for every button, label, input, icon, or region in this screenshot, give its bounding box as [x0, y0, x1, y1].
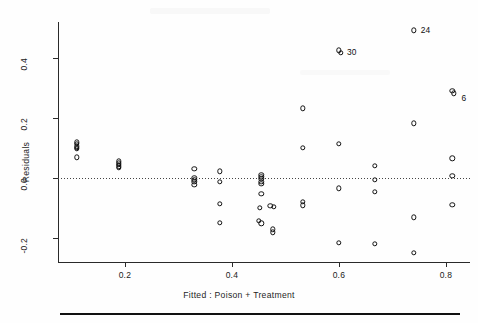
data-point	[192, 166, 197, 171]
scan-artifact	[150, 8, 270, 14]
x-tick-mark	[339, 262, 340, 267]
data-point	[217, 169, 222, 174]
data-point	[411, 214, 416, 219]
data-point	[451, 91, 456, 96]
y-axis-title: Residuals	[21, 141, 31, 181]
residuals-vs-fitted-plot: 0.20.40.60.8-0.20.00.20.4 24306 Residual…	[0, 0, 478, 323]
data-point	[372, 177, 377, 182]
point-label: 24	[421, 25, 430, 35]
x-tick-label: 0.4	[226, 270, 238, 280]
data-point	[411, 120, 416, 125]
y-axis-line	[58, 22, 59, 262]
data-point	[74, 155, 79, 160]
data-point	[217, 220, 222, 225]
data-point	[259, 191, 264, 196]
x-tick-mark	[446, 262, 447, 267]
scan-artifact	[300, 70, 390, 75]
data-point	[116, 165, 121, 170]
data-point	[336, 141, 341, 146]
data-point	[411, 28, 416, 33]
data-point	[271, 204, 276, 209]
data-point	[217, 201, 222, 206]
data-point	[411, 250, 416, 255]
data-point	[336, 240, 341, 245]
y-tick-mark	[53, 118, 58, 119]
data-point	[257, 205, 262, 210]
x-tick-label: 0.8	[440, 270, 452, 280]
page-footer-rule	[60, 313, 460, 315]
x-axis-title: Fitted : Poison + Treatment	[0, 290, 478, 300]
point-label: 30	[347, 47, 356, 57]
y-tick-mark	[53, 178, 58, 179]
data-point	[372, 189, 377, 194]
x-tick-label: 0.6	[333, 270, 345, 280]
data-point	[300, 145, 305, 150]
y-tick-label: -0.2	[19, 238, 29, 253]
data-point	[336, 185, 341, 190]
data-point	[192, 182, 197, 187]
y-tick-mark	[53, 58, 58, 59]
data-point	[74, 146, 79, 151]
x-tick-mark	[232, 262, 233, 267]
data-point	[259, 181, 264, 186]
x-tick-label: 0.2	[119, 270, 131, 280]
point-label: 6	[462, 93, 467, 103]
data-point	[338, 50, 343, 55]
x-tick-mark	[125, 262, 126, 267]
zero-reference-line	[58, 178, 470, 179]
data-point	[259, 220, 264, 225]
y-tick-label: 0.2	[19, 118, 29, 130]
data-point	[372, 163, 377, 168]
data-point	[450, 155, 455, 160]
y-tick-mark	[53, 238, 58, 239]
y-tick-label: 0.4	[19, 58, 29, 70]
data-point	[372, 241, 377, 246]
data-point	[300, 105, 305, 110]
data-point	[217, 179, 222, 184]
data-point	[270, 229, 275, 234]
data-point	[450, 202, 455, 207]
x-axis-line	[58, 262, 470, 263]
data-point	[300, 202, 305, 207]
